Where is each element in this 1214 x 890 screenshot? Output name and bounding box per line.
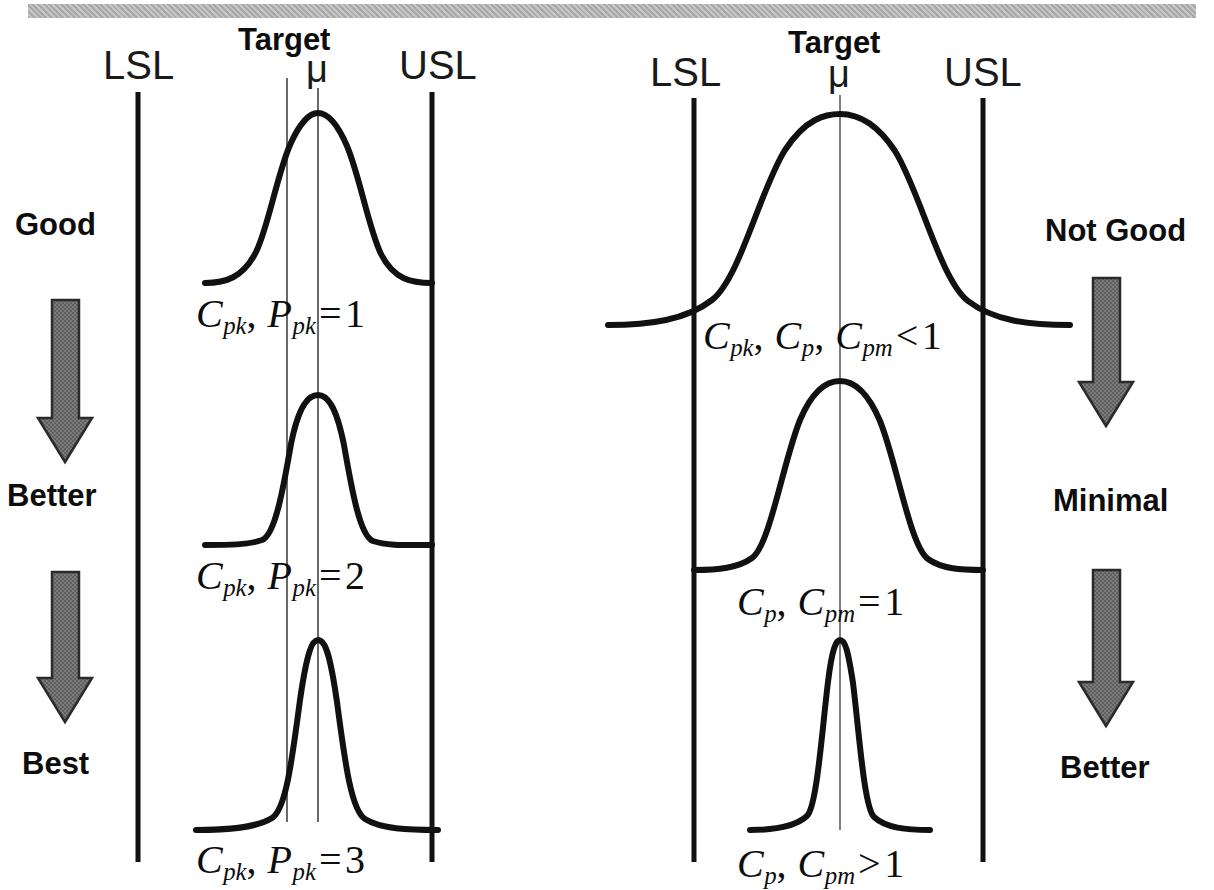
lc3-s2: pk — [293, 858, 316, 885]
lc1-c1: , — [247, 291, 258, 336]
left-arrow-better-to-best — [38, 572, 92, 722]
rc1-val: 1 — [922, 313, 943, 358]
rc3-t1: C — [737, 841, 764, 886]
lc2-val: 2 — [345, 553, 366, 598]
right-caption-row3: Cp, Cpm>1 — [737, 840, 905, 890]
rc2-s2: pm — [825, 600, 855, 627]
rc1-c1: , — [754, 313, 765, 358]
left-lsl-label: LSL — [103, 43, 174, 88]
left-curve-row3 — [196, 640, 438, 830]
rc2-t2: C — [798, 579, 825, 624]
lc1-s2: pk — [293, 312, 316, 339]
rc1-c2: , — [814, 313, 825, 358]
rc3-t2: C — [798, 841, 825, 886]
rc3-s1: p — [764, 862, 776, 889]
lc3-val: 3 — [345, 837, 366, 882]
right-caption-row1: Cpk, Cp, Cpm<1 — [703, 312, 942, 362]
rc2-t1: C — [737, 579, 764, 624]
lc2-s2: pk — [293, 574, 316, 601]
rc1-s3: pm — [862, 334, 892, 361]
lc3-c1: , — [247, 837, 258, 882]
lc1-t2: P — [268, 291, 293, 336]
right-arrow-minimal-to-better — [1079, 570, 1133, 726]
rating-label-better-left: Better — [7, 478, 97, 514]
right-panel-curves — [608, 114, 1070, 830]
left-arrow-good-to-better — [38, 300, 92, 462]
lc3-t1: C — [196, 837, 223, 882]
rc3-c1: , — [777, 841, 788, 886]
left-caption-row1: Cpk, Ppk=1 — [196, 290, 366, 340]
rc2-val: 1 — [884, 579, 905, 624]
rc3-val: 1 — [884, 841, 905, 886]
left-mu-label: μ — [306, 48, 328, 91]
right-curve-row2 — [694, 381, 983, 570]
lc1-s1: pk — [223, 312, 246, 339]
rc2-op: = — [855, 579, 884, 624]
left-caption-row2: Cpk, Ppk=2 — [196, 552, 366, 602]
lc2-t1: C — [196, 553, 223, 598]
left-usl-label: USL — [399, 43, 477, 88]
lc2-t2: P — [268, 553, 293, 598]
right-curve-row1 — [608, 114, 1070, 325]
lc2-op: = — [316, 553, 345, 598]
rc1-t1: C — [703, 313, 730, 358]
lc1-op: = — [316, 291, 345, 336]
right-mu-label: μ — [828, 53, 850, 96]
rating-label-not-good: Not Good — [1045, 213, 1186, 249]
lc3-op: = — [316, 837, 345, 882]
rc2-s1: p — [764, 600, 776, 627]
rc3-s2: pm — [825, 862, 855, 889]
rc3-op: > — [855, 841, 884, 886]
rc2-c1: , — [777, 579, 788, 624]
rc1-op: < — [893, 313, 922, 358]
rc1-t3: C — [835, 313, 862, 358]
right-arrow-notgood-to-minimal — [1079, 278, 1133, 426]
rating-label-good: Good — [15, 207, 96, 243]
right-lsl-label: LSL — [650, 50, 721, 95]
rc1-s1: pk — [730, 334, 753, 361]
rating-label-minimal: Minimal — [1053, 483, 1168, 519]
right-caption-row2: Cp, Cpm=1 — [737, 578, 905, 628]
lc3-s1: pk — [223, 858, 246, 885]
lc1-val: 1 — [345, 291, 366, 336]
lc3-t2: P — [268, 837, 293, 882]
right-panel-spec-lines — [694, 95, 983, 862]
lc1-t1: C — [196, 291, 223, 336]
left-panel-curves — [196, 113, 438, 830]
left-caption-row3: Cpk, Ppk=3 — [196, 836, 366, 886]
right-usl-label: USL — [944, 50, 1022, 95]
rc1-s2: p — [802, 334, 814, 361]
rc1-t2: C — [775, 313, 802, 358]
lc2-s1: pk — [223, 574, 246, 601]
rating-label-better-right: Better — [1060, 750, 1150, 786]
lc2-c1: , — [247, 553, 258, 598]
rating-label-best: Best — [22, 746, 89, 782]
